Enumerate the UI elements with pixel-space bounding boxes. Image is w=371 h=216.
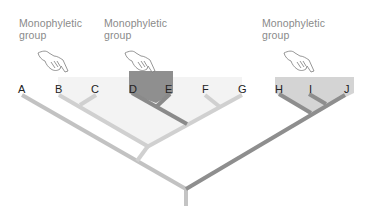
caption-monophyletic-group-2: Monophyletic group xyxy=(104,17,167,41)
taxon-label-a: A xyxy=(18,83,25,95)
branch-bg-stem xyxy=(137,146,148,161)
taxon-label-e: E xyxy=(165,83,172,95)
taxon-label-j: J xyxy=(344,83,350,95)
pointing-hand-icon xyxy=(284,51,314,72)
caption-line-1: Monophyletic xyxy=(19,17,82,29)
taxon-label-b: B xyxy=(55,83,62,95)
caption-line-2: group xyxy=(262,29,325,41)
caption-monophyletic-group-1: Monophyletic group xyxy=(19,17,82,41)
taxon-label-i: I xyxy=(309,83,312,95)
caption-line-1: Monophyletic xyxy=(104,17,167,29)
taxon-label-d: D xyxy=(129,83,137,95)
caption-monophyletic-group-3: Monophyletic group xyxy=(262,17,325,41)
caption-line-2: group xyxy=(104,29,167,41)
caption-line-1: Monophyletic xyxy=(262,17,325,29)
taxon-label-f: F xyxy=(202,83,209,95)
taxon-label-g: G xyxy=(238,83,247,95)
taxon-label-c: C xyxy=(91,83,99,95)
pointing-hand-icon xyxy=(125,51,155,72)
phylogenetic-tree-diagram: Monophyletic group Monophyletic group Mo… xyxy=(0,0,371,216)
caption-line-2: group xyxy=(19,29,82,41)
taxon-label-h: H xyxy=(275,83,283,95)
pointing-hand-icon xyxy=(38,51,68,72)
